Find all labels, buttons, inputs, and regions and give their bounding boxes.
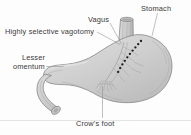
label-omentum: omentum xyxy=(13,62,45,71)
leader-stomach xyxy=(152,13,158,36)
esophagus-lumen xyxy=(122,18,131,20)
label-highly-selective-vagotomy: Highly selective vagotomy xyxy=(5,27,94,36)
stomach-vagotomy-illustration: Highly selective vagotomy Vagus Stomach … xyxy=(0,0,191,135)
label-vagus: Vagus xyxy=(88,15,109,24)
anatomical-figure: Highly selective vagotomy Vagus Stomach … xyxy=(0,0,191,135)
label-lesser: Lesser xyxy=(22,53,45,62)
leader-highly-selective-vagotomy xyxy=(97,32,120,45)
stomach-body xyxy=(44,35,172,103)
label-stomach: Stomach xyxy=(141,4,171,13)
